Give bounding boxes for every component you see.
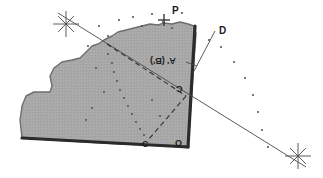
dot-top-scatter [132, 16, 134, 18]
dot-misc [91, 107, 93, 109]
survey-figure: PDA' (B')CCO [0, 0, 323, 178]
label-point-p: P [172, 6, 179, 16]
parcel-polygon [20, 22, 196, 146]
dot-top-scatter [162, 21, 164, 23]
dot-misc [87, 45, 89, 47]
dot-top-scatter [118, 19, 120, 21]
dot-interior-trail [139, 128, 141, 130]
dot-interior-trail [123, 97, 125, 99]
dot-right-arc [252, 94, 254, 96]
dot-right-arc [261, 129, 263, 131]
dot-misc [85, 119, 87, 121]
dot-right-arc [244, 77, 246, 79]
station-star-bottom-right [285, 143, 311, 169]
dot-interior-trail [131, 113, 133, 115]
label-point-a-prime-b-prime: A' (B') [150, 56, 176, 65]
dot-interior-trail [113, 71, 115, 73]
dot-top-scatter [98, 25, 100, 27]
dot-interior-trail [107, 53, 109, 55]
dot-misc [159, 115, 161, 117]
dot-right-arc [220, 46, 222, 48]
dot-misc [103, 91, 105, 93]
dot-top-scatter [181, 12, 183, 14]
dot-right-arc [233, 61, 235, 63]
dot-interior-trail [135, 121, 137, 123]
dot-interior-trail [111, 62, 113, 64]
dot-misc [95, 67, 97, 69]
dot-misc [151, 99, 153, 101]
dot-interior-trail [116, 80, 118, 82]
dot-top-scatter [107, 35, 109, 37]
station-star-top-left [53, 11, 79, 37]
dot-interior-trail [119, 89, 121, 91]
label-point-c-upper: C [176, 84, 183, 93]
dot-interior-trail [143, 134, 145, 136]
label-point-c-lower: C [142, 140, 149, 149]
figure-canvas [0, 0, 323, 178]
dot-top-scatter [141, 25, 143, 27]
dot-right-arc [267, 146, 269, 148]
dot-interior-trail [127, 105, 129, 107]
dot-top-scatter [151, 13, 153, 15]
label-point-d: D [219, 26, 226, 36]
dot-right-arc [257, 111, 259, 113]
label-point-o: O [175, 139, 182, 148]
dot-top-scatter [171, 27, 173, 29]
dot-right-arc [208, 39, 210, 41]
